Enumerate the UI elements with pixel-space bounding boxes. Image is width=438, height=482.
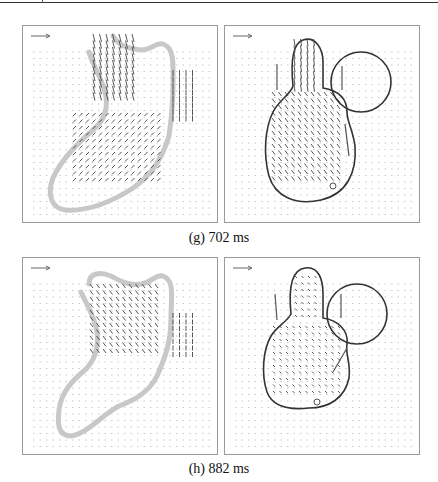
scale-arrow-icon	[233, 34, 252, 38]
caption-g: (g) 702 ms	[0, 230, 438, 246]
valve-leaflet	[345, 124, 349, 156]
panel-g-left	[22, 25, 218, 223]
scale-arrow-icon	[233, 266, 252, 270]
top-rule	[0, 2, 438, 3]
velocity-field-plot	[23, 26, 217, 222]
caption-h: (h) 882 ms	[0, 461, 438, 477]
panel-h-left	[22, 257, 218, 455]
panel-h-right	[224, 257, 420, 455]
velocity-field-plot	[225, 258, 419, 454]
velocity-field-plot	[225, 26, 419, 222]
marker-icon	[314, 399, 320, 405]
velocity-field-plot	[23, 258, 217, 454]
top-rule-tick	[42, 0, 43, 3]
ventricle-contour	[264, 268, 350, 409]
scale-arrow-icon	[31, 266, 50, 270]
scale-arrow-icon	[31, 34, 50, 38]
ventricle-outline	[58, 274, 171, 436]
atrium-contour	[331, 52, 391, 112]
panel-g-right	[224, 25, 420, 223]
atrium-contour	[327, 284, 387, 344]
